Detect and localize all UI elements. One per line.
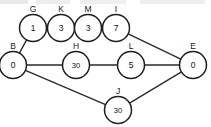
- node-i-value: 7: [114, 23, 119, 33]
- node-g-label: G: [30, 4, 37, 14]
- node-l-value: 5: [129, 60, 134, 70]
- nodes-layer: G1K3M3I7B0H30L5E0J30: [0, 4, 207, 124]
- edge-b-j: [25, 70, 105, 104]
- node-j-label: J: [116, 86, 120, 96]
- node-m-value: 3: [86, 23, 91, 33]
- node-g[interactable]: G1: [20, 4, 47, 42]
- node-l-label: L: [129, 41, 134, 51]
- node-i-label: I: [115, 4, 117, 14]
- network-graph: G1K3M3I7B0H30L5E0J30: [0, 0, 211, 127]
- node-i[interactable]: I7: [103, 4, 130, 42]
- node-k-value: 3: [59, 23, 64, 33]
- node-b-value: 0: [11, 60, 16, 70]
- node-h-label: H: [73, 41, 79, 51]
- node-h-value: 30: [72, 61, 80, 70]
- node-m[interactable]: M3: [75, 4, 102, 42]
- node-m-label: M: [84, 4, 91, 14]
- edge-b-g: [19, 40, 26, 53]
- node-j-value: 30: [114, 106, 122, 115]
- node-k[interactable]: K3: [48, 4, 75, 42]
- node-h[interactable]: H30: [63, 41, 90, 79]
- node-k-label: K: [58, 4, 64, 14]
- node-l[interactable]: L5: [118, 41, 145, 79]
- node-e-value: 0: [191, 60, 196, 70]
- graph-diagram-canvas: G1K3M3I7B0H30L5E0J30: [0, 0, 211, 127]
- edges-layer: [19, 28, 181, 105]
- node-b-label: B: [10, 41, 16, 51]
- node-e[interactable]: E0: [180, 41, 207, 79]
- node-j[interactable]: J30: [105, 86, 132, 124]
- node-e-label: E: [190, 41, 196, 51]
- node-g-value: 1: [31, 23, 36, 33]
